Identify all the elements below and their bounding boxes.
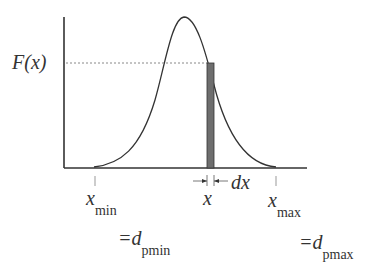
dpmax-symbol: =d (299, 231, 323, 253)
distribution-curve (94, 17, 276, 167)
xmin-label: xmin (86, 188, 117, 208)
dpmax-subscript: pmax (323, 247, 354, 262)
xmin-subscript: min (95, 203, 117, 218)
dpmin-subscript: pmin (142, 243, 171, 258)
dpmin-symbol: =d (118, 227, 142, 249)
x-label: x (203, 188, 212, 208)
dx-label: dx (231, 172, 250, 192)
dpmin-label: =dpmin (118, 228, 170, 248)
xmax-symbol: x (268, 189, 277, 211)
dpmax-label: =dpmax (299, 232, 354, 252)
dx-bar (207, 63, 214, 168)
xmax-subscript: max (277, 205, 301, 220)
fx-label: F(x) (12, 52, 46, 72)
xmin-symbol: x (86, 187, 95, 209)
xmax-label: xmax (268, 190, 301, 210)
dx-arrowhead-right (214, 179, 219, 183)
dx-arrowhead-left (202, 179, 207, 183)
